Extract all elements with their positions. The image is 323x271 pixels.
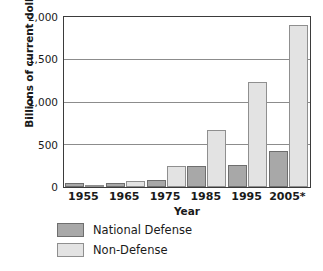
- y-tick-label-0: 0: [14, 182, 58, 192]
- x-tick-label-1955: 1955: [63, 190, 104, 203]
- bar-1985-non-defense: [207, 130, 226, 187]
- plot-area: [63, 16, 311, 188]
- x-tick-label-1985: 1985: [185, 190, 226, 203]
- legend-item-non-defense: Non-Defense: [57, 241, 287, 259]
- y-tick-label-2000: 2,000: [14, 12, 58, 22]
- bar-1985-national-defense: [187, 166, 206, 187]
- gridline-1000: [64, 102, 310, 103]
- bar-1995-non-defense: [248, 82, 267, 187]
- dark-gray-swatch-icon: [57, 223, 84, 237]
- bar-chart-figure: Billions of current dollars 2,000 1,500 …: [0, 0, 323, 271]
- legend-item-national-defense: National Defense: [57, 221, 287, 239]
- y-axis-tick-labels: 2,000 1,500 1,000 500 0: [14, 0, 58, 271]
- x-tick-label-1965: 1965: [104, 190, 145, 203]
- y-tick-label-500: 500: [14, 140, 58, 150]
- bar-1955-non-defense: [85, 185, 104, 187]
- legend-label-non-defense: Non-Defense: [93, 243, 168, 257]
- legend-label-national-defense: National Defense: [93, 223, 192, 237]
- bar-1955-national-defense: [65, 183, 84, 187]
- x-axis-tick-labels: 195519651975198519952005*: [63, 190, 311, 206]
- bar-2005-national-defense: [269, 151, 288, 187]
- cropped-caption-sliver: [4, 264, 304, 271]
- bar-1975-non-defense: [167, 166, 186, 187]
- x-tick-label-2005: 2005*: [267, 190, 308, 203]
- y-tick-label-1500: 1,500: [14, 54, 58, 64]
- bar-1965-non-defense: [126, 181, 145, 187]
- chart-legend: National Defense Non-Defense: [57, 221, 287, 261]
- bar-2005-non-defense: [289, 25, 308, 187]
- x-tick-label-1995: 1995: [226, 190, 267, 203]
- x-axis-title: Year: [63, 205, 311, 217]
- y-tick-label-1000: 1,000: [14, 97, 58, 107]
- bar-1965-national-defense: [106, 183, 125, 187]
- light-gray-swatch-icon: [57, 243, 84, 257]
- gridline-1500: [64, 59, 310, 60]
- bar-1975-national-defense: [147, 180, 166, 187]
- x-tick-label-1975: 1975: [145, 190, 186, 203]
- gridline-500: [64, 144, 310, 145]
- bar-1995-national-defense: [228, 165, 247, 187]
